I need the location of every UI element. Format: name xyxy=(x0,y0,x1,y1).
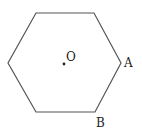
hexagon xyxy=(8,13,121,112)
label-o: O xyxy=(66,50,76,64)
center-point xyxy=(63,63,66,66)
label-a: A xyxy=(123,56,133,70)
hexagon-diagram: O A B xyxy=(0,0,142,132)
label-b: B xyxy=(96,116,105,130)
